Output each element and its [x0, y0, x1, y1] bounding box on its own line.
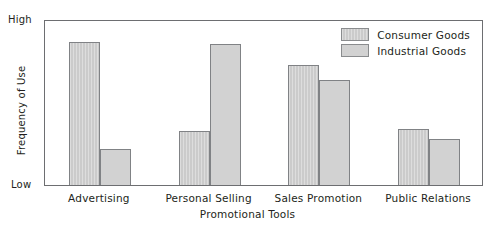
- bar: [69, 42, 100, 185]
- plot-frame: Consumer Goods Industrial Goods: [44, 20, 483, 186]
- y-axis-title: Frequency of Use: [16, 51, 27, 171]
- legend-item-consumer-goods: Consumer Goods: [341, 28, 470, 41]
- bar: [179, 131, 210, 185]
- bar-chart: High Low Frequency of Use Consumer Goods…: [0, 0, 495, 233]
- bar: [288, 65, 319, 185]
- x-axis-tick-label: Public Relations: [385, 192, 471, 204]
- x-axis-title: Promotional Tools: [0, 208, 495, 220]
- bar: [429, 139, 460, 185]
- legend-swatch-industrial-goods: [341, 44, 369, 57]
- legend-label-industrial-goods: Industrial Goods: [377, 45, 466, 57]
- legend-swatch-consumer-goods: [341, 28, 369, 41]
- chart-legend: Consumer Goods Industrial Goods: [341, 28, 470, 57]
- x-axis-tick-label: Sales Promotion: [275, 192, 363, 204]
- bar: [319, 80, 350, 185]
- x-axis-tick-label: Personal Selling: [165, 192, 251, 204]
- x-axis-tick-label: Advertising: [68, 192, 130, 204]
- y-axis-low-label: Low: [11, 179, 31, 190]
- bar: [210, 44, 241, 185]
- bar-group: [177, 21, 243, 185]
- bar: [100, 149, 131, 185]
- y-axis-high-label: High: [8, 14, 32, 25]
- legend-item-industrial-goods: Industrial Goods: [341, 44, 470, 57]
- bar: [398, 129, 429, 185]
- legend-label-consumer-goods: Consumer Goods: [377, 29, 470, 41]
- bar-group: [67, 21, 133, 185]
